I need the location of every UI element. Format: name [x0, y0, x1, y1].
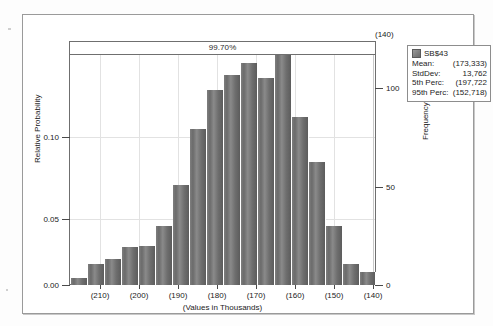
certainty-label: 99.70%: [70, 43, 375, 52]
x-axis-label: (150): [325, 291, 344, 300]
legend-box[interactable]: SB$43 Mean: (173,333) StdDev: 13,762 5th…: [407, 45, 491, 102]
bar: [275, 55, 292, 285]
x-axis-title: (Values in Thousands): [69, 303, 376, 312]
x-axis-label: (140): [364, 291, 383, 300]
bar: [122, 247, 139, 285]
legend-row-stddev: StdDev: 13,762: [412, 69, 487, 79]
legend-value: (173,333): [451, 59, 487, 69]
bar: [88, 264, 105, 285]
x-axis-label: (210): [91, 291, 110, 300]
bar: [156, 226, 173, 285]
y-axis-label-right: 50: [386, 182, 395, 191]
x-axis-label: (160): [286, 291, 305, 300]
legend-row-mean: Mean: (173,333): [412, 59, 487, 69]
x-axis-tick: [178, 285, 179, 289]
series-swatch-icon: [412, 49, 421, 58]
x-axis-tick: [139, 285, 140, 289]
y-axis-title-right: Frequency: [421, 102, 430, 140]
bar: [71, 278, 88, 285]
x-axis-tick: [334, 285, 335, 289]
x-axis-label: (190): [169, 291, 188, 300]
bar: [173, 185, 190, 285]
y-axis-tick-left: [62, 285, 70, 286]
legend-value: (152,718): [451, 88, 487, 98]
y-axis-tick-right: [375, 285, 383, 286]
x-axis-label: (200): [130, 291, 149, 300]
y-axis-label-left: 0.05: [43, 215, 59, 224]
certainty-band: 99.70%: [70, 42, 375, 55]
legend-row-p5: 5th Perc: (197,722: [412, 78, 487, 88]
y-axis-tick-left: [62, 137, 70, 138]
legend-row-p95: 95th Perc: (152,718): [412, 88, 487, 98]
legend-key: Mean:: [412, 59, 451, 69]
y-axis-label-left: 0.00: [43, 281, 59, 290]
y-axis-label-left: 0.10: [43, 133, 59, 142]
legend-value: (197,722: [451, 78, 487, 88]
artifact-speck-left: [6, 289, 8, 291]
bar: [190, 129, 207, 285]
bar: [309, 162, 326, 285]
bar: [139, 246, 156, 285]
bar: [105, 259, 122, 285]
bar: [258, 78, 275, 285]
plot-area: 99.70%: [69, 41, 376, 285]
y-axis-title-left: Relative Probability: [33, 95, 42, 163]
y-axis-label-right: 0: [386, 281, 390, 290]
x-axis-label: (170): [247, 291, 266, 300]
y-axis-tick-right: [375, 187, 383, 188]
x-axis-tick: [217, 285, 218, 289]
y-axis-label-right: 100: [386, 84, 399, 93]
bar: [343, 264, 360, 285]
top-bin-label: (140): [375, 30, 394, 39]
bar: [360, 272, 376, 285]
plot-canvas: 0.00 0.05 0.10 0 50 100 (210) (200) (190…: [70, 55, 375, 285]
x-axis-tick: [256, 285, 257, 289]
x-axis-tick: [373, 285, 374, 289]
legend-key: 5th Perc:: [412, 78, 451, 88]
legend-value: 13,762: [451, 69, 487, 79]
artifact-speck-top: [8, 28, 11, 30]
x-axis-tick: [100, 285, 101, 289]
histogram-bars: [70, 55, 375, 285]
bar: [292, 117, 309, 285]
legend-key: 95th Perc:: [412, 88, 451, 98]
bar: [207, 90, 224, 286]
y-axis-tick-left: [62, 219, 70, 220]
x-axis-tick: [295, 285, 296, 289]
bar: [241, 63, 258, 285]
bar: [326, 226, 343, 285]
y-axis-tick-right: [375, 88, 383, 89]
legend-key: StdDev:: [412, 69, 451, 79]
legend-series-name: SB$43: [424, 49, 448, 58]
x-axis-label: (180): [208, 291, 227, 300]
screenshot-root: (140) 99.70%: [0, 0, 493, 326]
chart-window-frame: (140) 99.70%: [22, 14, 474, 314]
legend-header: SB$43: [412, 49, 487, 58]
bar: [224, 75, 241, 285]
